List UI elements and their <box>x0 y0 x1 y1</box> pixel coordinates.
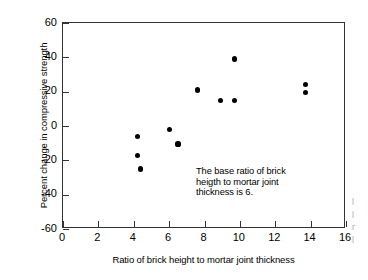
x-axis-label: Ratio of brick height to mortar joint th… <box>62 254 345 265</box>
artifact-line: l <box>352 196 368 209</box>
artifact-line: l <box>352 209 368 222</box>
x-axis-tick-mark <box>63 221 64 227</box>
x-axis-tick-mark <box>275 221 276 227</box>
data-point <box>218 98 223 103</box>
page-scan-edge-artifact: llrl <box>352 196 368 254</box>
x-axis-tick-mark <box>205 221 206 227</box>
y-axis-tick-mark <box>63 126 69 127</box>
x-axis-tick-mark <box>169 221 170 227</box>
data-point <box>167 127 172 132</box>
x-axis-tick-label: 6 <box>153 232 183 243</box>
chart-annotation-note: The base ratio of brick heigth to mortar… <box>196 166 286 198</box>
data-point <box>195 87 200 92</box>
data-point <box>232 98 237 103</box>
y-axis-tick-mark <box>63 92 69 93</box>
data-point <box>135 134 140 139</box>
y-axis-tick-label: 0 <box>17 120 57 131</box>
x-axis-tick-label: 10 <box>224 232 254 243</box>
data-point <box>303 82 308 87</box>
y-axis-tick-label: 60 <box>17 17 57 28</box>
y-axis-tick-label: -40 <box>17 188 57 199</box>
x-axis-tick-label: 14 <box>295 232 325 243</box>
y-axis-tick-mark <box>63 160 69 161</box>
x-axis-tick-label: 2 <box>82 232 112 243</box>
artifact-line: r <box>352 221 368 234</box>
y-axis-tick-mark <box>63 57 69 58</box>
x-axis-tick-label: 0 <box>47 232 77 243</box>
artifact-line: l <box>352 234 368 247</box>
data-point <box>303 90 308 95</box>
x-axis-tick-mark <box>98 221 99 227</box>
y-axis-tick-label: 40 <box>17 51 57 62</box>
x-axis-tick-label: 8 <box>189 232 219 243</box>
x-axis-tick-mark <box>346 221 347 227</box>
data-point <box>138 166 143 171</box>
x-axis-tick-mark <box>240 221 241 227</box>
x-axis-tick-mark <box>311 221 312 227</box>
y-axis-tick-mark <box>63 23 69 24</box>
y-axis-tick-label: -20 <box>17 154 57 165</box>
data-point <box>232 56 237 61</box>
y-axis-tick-label: 20 <box>17 85 57 96</box>
scatter-plot-figure: Percent change in compressive strength R… <box>0 0 368 280</box>
x-axis-tick-mark <box>134 221 135 227</box>
x-axis-tick-label: 4 <box>118 232 148 243</box>
y-axis-tick-mark <box>63 229 69 230</box>
y-axis-tick-mark <box>63 195 69 196</box>
data-point <box>175 141 180 146</box>
data-point <box>135 153 140 158</box>
x-axis-tick-label: 12 <box>259 232 289 243</box>
